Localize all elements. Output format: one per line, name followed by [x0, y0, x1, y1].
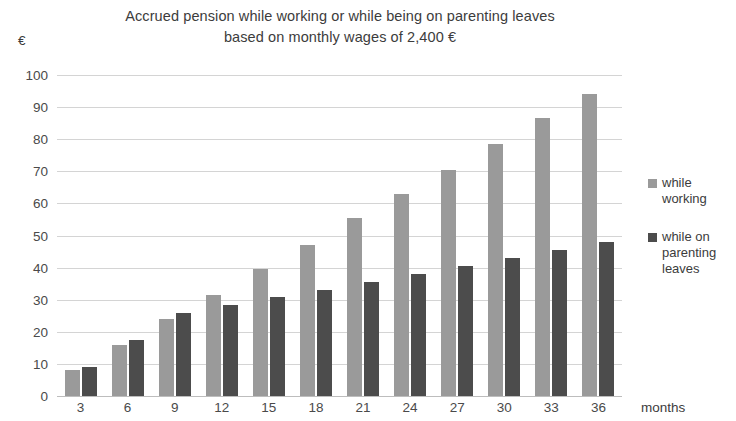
legend-item[interactable]: while on parenting leaves [648, 229, 734, 277]
bar-while-on-parenting-leaves [599, 242, 614, 396]
bar-while-on-parenting-leaves [552, 250, 567, 396]
bar-group [387, 75, 434, 396]
y-axis-tick-label: 70 [33, 164, 48, 179]
bar-while-on-parenting-leaves [411, 274, 426, 396]
bar-while-working [253, 269, 268, 396]
bar-group [292, 75, 339, 396]
bar-while-on-parenting-leaves [223, 305, 238, 396]
bar-while-working [300, 245, 315, 396]
bar-group [528, 75, 575, 396]
bar-group [434, 75, 481, 396]
bar-group [57, 75, 104, 396]
x-axis-tick-label: 15 [245, 400, 292, 415]
x-axis-tick-label: 18 [292, 400, 339, 415]
y-axis-unit-label: € [18, 33, 26, 48]
bar-while-working [582, 94, 597, 396]
legend-swatch-icon [648, 233, 657, 242]
bar-group [481, 75, 528, 396]
x-axis-title: months [641, 400, 685, 415]
bar-while-working [394, 194, 409, 396]
bar-while-working [441, 170, 456, 396]
y-axis-tick-label: 10 [33, 356, 48, 371]
y-axis-tick-label: 100 [25, 68, 48, 83]
bar-group [104, 75, 151, 396]
y-axis-tick-label: 40 [33, 260, 48, 275]
bar-while-working [65, 370, 80, 396]
bar-while-on-parenting-leaves [317, 290, 332, 396]
bar-while-on-parenting-leaves [129, 340, 144, 396]
chart-title: Accrued pension while working or while b… [60, 6, 620, 48]
bar-while-on-parenting-leaves [270, 297, 285, 397]
chart-legend: while workingwhile on parenting leaves [648, 175, 734, 299]
bar-group [245, 75, 292, 396]
bar-while-on-parenting-leaves [82, 367, 97, 396]
bar-group [575, 75, 622, 396]
y-axis-tick-label: 0 [40, 389, 48, 404]
legend-item[interactable]: while working [648, 175, 734, 207]
x-axis-tick-label: 9 [151, 400, 198, 415]
bar-group [198, 75, 245, 396]
bar-while-on-parenting-leaves [505, 258, 520, 396]
bar-while-working [535, 118, 550, 396]
y-axis-tick-label: 30 [33, 292, 48, 307]
x-axis-tick-label: 21 [339, 400, 386, 415]
bar-while-working [159, 319, 174, 396]
y-axis-tick-label: 50 [33, 228, 48, 243]
x-axis-tick-label: 24 [387, 400, 434, 415]
x-axis-tick-label: 33 [528, 400, 575, 415]
x-axis-tick-label: 3 [57, 400, 104, 415]
bar-while-working [206, 295, 221, 396]
legend-swatch-icon [648, 179, 657, 188]
bar-groups [57, 75, 622, 396]
y-axis-tick-label: 60 [33, 196, 48, 211]
bar-while-working [488, 144, 503, 396]
x-axis-tick-label: 6 [104, 400, 151, 415]
gridline: 0 [57, 396, 622, 397]
x-axis-tick-labels: 369121518212427303336 [57, 400, 622, 415]
y-axis-tick-label: 20 [33, 324, 48, 339]
bar-group [339, 75, 386, 396]
x-axis-tick-label: 27 [434, 400, 481, 415]
bar-while-on-parenting-leaves [364, 282, 379, 396]
x-axis-tick-label: 30 [481, 400, 528, 415]
x-axis-tick-label: 36 [575, 400, 622, 415]
bar-while-working [347, 218, 362, 396]
bar-group [151, 75, 198, 396]
y-axis-tick-label: 90 [33, 100, 48, 115]
bar-while-on-parenting-leaves [176, 313, 191, 396]
legend-label: while working [662, 175, 734, 207]
pension-bar-chart: Accrued pension while working or while b… [0, 0, 736, 421]
y-axis-tick-label: 80 [33, 132, 48, 147]
bar-while-on-parenting-leaves [458, 266, 473, 396]
plot-area: 1009080706050403020100 [57, 75, 622, 396]
bar-while-working [112, 345, 127, 396]
x-axis-tick-label: 12 [198, 400, 245, 415]
legend-label: while on parenting leaves [662, 229, 734, 277]
